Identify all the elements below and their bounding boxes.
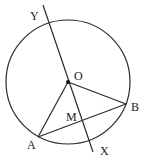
line-xy <box>43 5 93 152</box>
segment-ob <box>68 82 126 104</box>
label-x: X <box>100 144 109 158</box>
label-o: O <box>74 69 83 83</box>
segment-oa <box>38 82 68 137</box>
label-y: Y <box>30 9 39 23</box>
geometry-diagram: Y O B M A X <box>0 0 143 163</box>
label-a: A <box>27 138 36 152</box>
label-m: M <box>66 110 77 124</box>
label-b: B <box>131 100 139 114</box>
chord-ab <box>38 104 126 137</box>
center-point-o <box>66 80 70 84</box>
